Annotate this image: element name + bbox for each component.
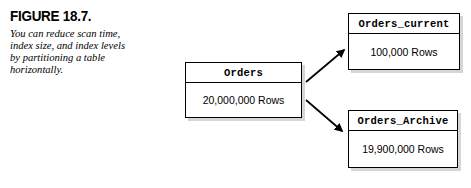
- figure-18-7: FIGURE 18.7. You can reduce scan time, i…: [0, 0, 471, 188]
- caption-line: by partitioning a table: [10, 52, 140, 64]
- arrow-to-orders-archive: [306, 100, 342, 131]
- arrow-to-orders-current: [306, 50, 344, 82]
- figure-label: FIGURE 18.7.: [10, 9, 131, 24]
- figure-caption-text: You can reduce scan time, index size, an…: [10, 28, 140, 76]
- table-rows-orders-current: 100,000 Rows: [349, 34, 459, 69]
- caption-line: index size, and index levels: [10, 40, 140, 52]
- table-box-orders: Orders 20,000,000 Rows: [185, 62, 302, 118]
- table-box-orders-current: Orders_current 100,000 Rows: [348, 13, 460, 70]
- table-box-orders-archive: Orders_Archive 19,900,000 Rows: [348, 110, 458, 168]
- table-name-orders: Orders: [186, 63, 301, 83]
- caption-line: You can reduce scan time,: [10, 28, 140, 40]
- figure-caption-block: FIGURE 18.7. You can reduce scan time, i…: [10, 9, 140, 76]
- table-name-orders-current: Orders_current: [349, 14, 459, 34]
- table-rows-orders: 20,000,000 Rows: [186, 83, 301, 117]
- table-rows-orders-archive: 19,900,000 Rows: [349, 131, 457, 167]
- table-name-orders-archive: Orders_Archive: [349, 111, 457, 131]
- caption-line: horizontally.: [10, 64, 140, 76]
